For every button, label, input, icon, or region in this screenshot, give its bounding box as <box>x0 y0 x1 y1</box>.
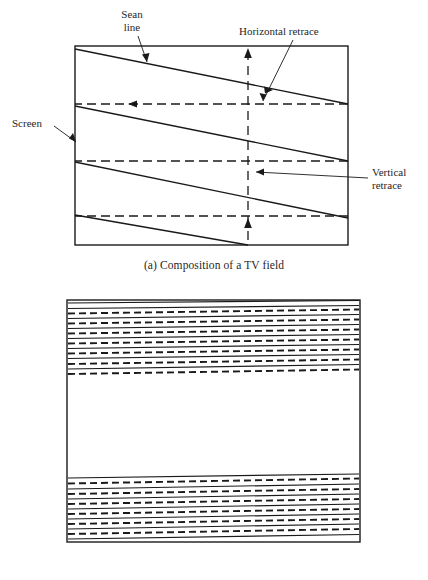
interlacing-diagram <box>0 290 428 580</box>
label-scan-line: Sean line <box>104 8 160 34</box>
label-vertical-retrace: Vertical retrace <box>372 166 428 192</box>
figure-a-tv-field: Sean line Horizontal retrace Screen Vert… <box>0 0 428 290</box>
figure-a-caption: (a) Composition of a TV field <box>0 259 428 271</box>
label-screen: Screen <box>12 117 42 130</box>
label-horizontal-retrace: Horizontal retrace <box>239 25 319 38</box>
figure-b-interlacing: 1 264 2 265 3 266 4 263 1 264 2 265 3 26… <box>0 290 428 580</box>
tv-field-diagram <box>0 0 428 290</box>
